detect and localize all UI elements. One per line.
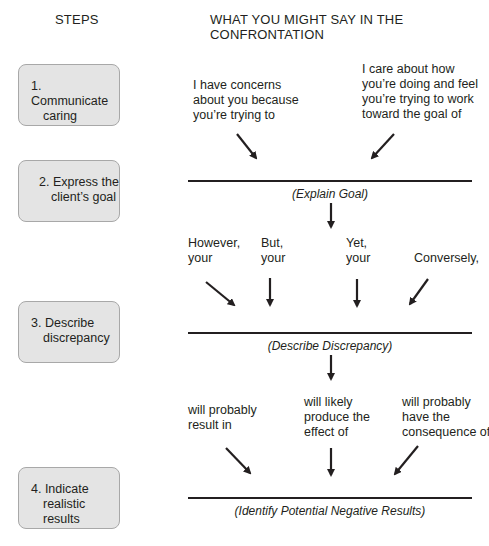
arrows [0,0,489,546]
confrontation-diagram: STEPS WHAT YOU MIGHT SAY IN THE CONFRONT… [0,0,489,546]
arrow-down-right-icon [237,134,256,158]
arrow-down-right-icon [206,282,234,305]
arrow-down-left-icon [395,446,418,474]
arrow-down-right-icon [226,448,250,473]
arrow-down-left-icon [410,279,428,304]
arrow-down-left-icon [372,134,394,158]
